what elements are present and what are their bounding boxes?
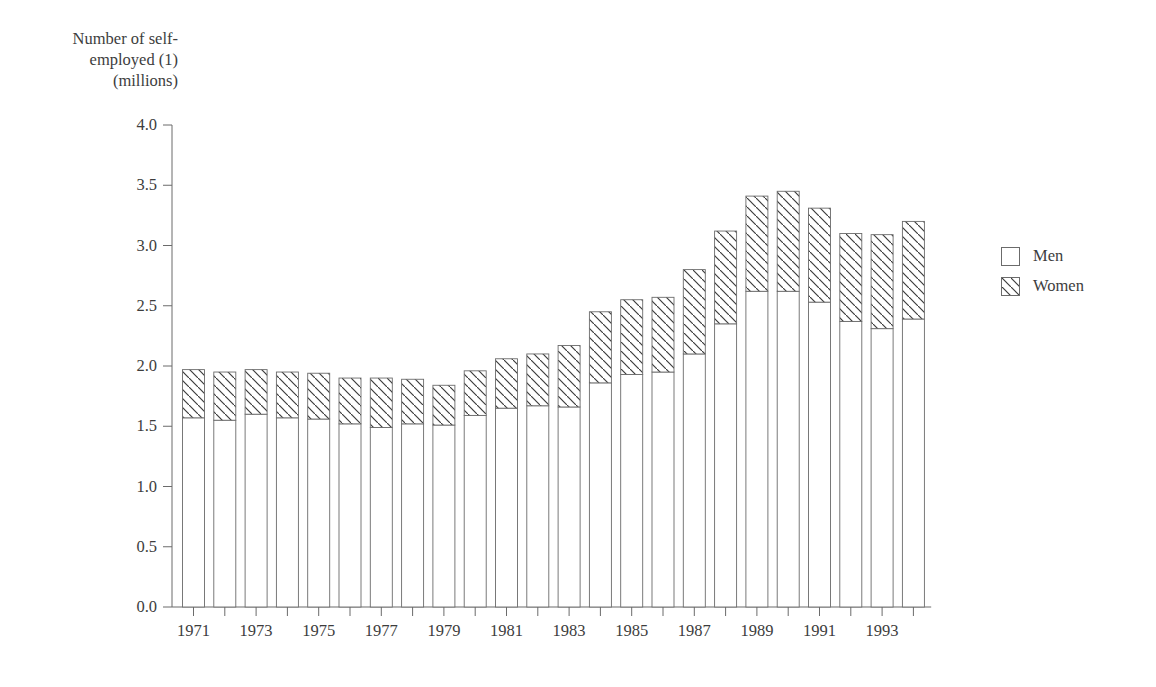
x-tick-label: 1971 [164,623,224,639]
x-tick-label: 1987 [664,623,724,639]
x-tick-label: 1975 [289,623,349,639]
bar-1993 [871,235,893,607]
bar-segment-men [683,354,705,607]
bar-segment-women [496,359,518,408]
bar-segment-men [715,324,737,607]
bar-1972 [214,372,236,607]
x-tick-label: 1977 [351,623,411,639]
bar-1988 [715,231,737,607]
bar-segment-women [652,297,674,372]
bar-segment-women [276,372,298,418]
bar-segment-men [496,408,518,607]
bar-1980 [464,371,486,607]
bar-1974 [276,372,298,607]
y-tick-label: 1.5 [99,418,157,434]
bar-segment-women [308,373,330,419]
bar-segment-men [214,420,236,607]
bar-segment-men [840,321,862,607]
bar-1986 [652,297,674,607]
bar-segment-men [871,329,893,607]
bar-1973 [245,370,267,607]
bar-1971 [183,370,205,607]
bar-segment-women [746,196,768,291]
legend-item-women: Women [1001,271,1151,301]
y-tick-label: 1.0 [99,479,157,495]
bar-segment-men [558,407,580,607]
bar-segment-women [715,231,737,324]
bar-segment-men [370,427,392,607]
bar-segment-men [464,415,486,607]
bar-1975 [308,373,330,607]
bar-segment-men [902,319,924,607]
x-tick-label: 1989 [727,623,787,639]
bar-segment-women [370,378,392,427]
bar-1977 [370,378,392,607]
bar-segment-women [214,372,236,420]
bar-segment-men [527,406,549,607]
bar-segment-women [589,312,611,383]
bar-1981 [496,359,518,607]
bar-segment-women [871,235,893,329]
bar-1989 [746,196,768,607]
bar-segment-men [777,291,799,607]
x-tick-label: 1985 [602,623,662,639]
legend-swatch-women [1001,277,1020,296]
bar-segment-men [183,418,205,607]
bar-segment-men [276,418,298,607]
bar-segment-women [183,370,205,418]
bar-1985 [621,300,643,607]
bar-1983 [558,346,580,607]
bar-1990 [777,191,799,607]
bar-segment-women [527,354,549,406]
bar-segment-men [746,291,768,607]
chart-bars [183,191,925,607]
legend-swatch-men [1001,247,1020,266]
x-tick-label: 1981 [477,623,537,639]
bar-segment-women [402,379,424,424]
bar-1982 [527,354,549,607]
legend-label-men: Men [1033,246,1063,266]
bar-segment-women [840,233,862,321]
y-tick-label: 0.5 [99,539,157,555]
bar-segment-women [339,378,361,424]
legend-item-men: Men [1001,241,1151,271]
bar-segment-men [402,424,424,607]
y-tick-label: 0.0 [99,599,157,615]
bar-segment-women [558,346,580,407]
bar-1987 [683,270,705,607]
y-tick-label: 2.5 [99,298,157,314]
bar-segment-women [621,300,643,375]
bar-1976 [339,378,361,607]
bar-segment-women [902,221,924,319]
bar-segment-women [809,208,831,302]
y-tick-label: 3.5 [99,177,157,193]
bar-1979 [433,385,455,607]
legend-label-women: Women [1033,276,1084,296]
bar-segment-women [433,385,455,425]
bar-segment-men [433,425,455,607]
bar-1991 [809,208,831,607]
bar-segment-men [809,302,831,607]
bar-segment-women [777,191,799,291]
bar-segment-women [683,270,705,354]
y-tick-label: 4.0 [99,117,157,133]
bar-segment-men [652,372,674,607]
x-tick-label: 1979 [414,623,474,639]
x-tick-label: 1991 [790,623,850,639]
bar-1992 [840,233,862,607]
chart-legend: Men Women [1001,241,1151,301]
bar-segment-men [339,424,361,607]
bar-segment-women [464,371,486,416]
bar-segment-men [308,419,330,607]
x-tick-label: 1973 [226,623,286,639]
hatch-pattern-icon [1002,278,1020,296]
bar-segment-men [621,374,643,607]
x-tick-label: 1983 [539,623,599,639]
chart-plot-area: 0.00.51.01.52.02.53.03.54.0 197119731975… [0,0,1156,687]
bar-segment-women [245,370,267,415]
y-tick-label: 2.0 [99,358,157,374]
bar-1978 [402,379,424,607]
bar-segment-men [245,414,267,607]
bar-chart-svg [0,0,1156,687]
x-tick-label: 1993 [852,623,912,639]
